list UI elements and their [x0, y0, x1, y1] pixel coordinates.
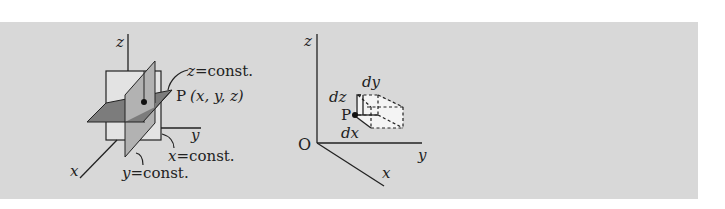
- x-const-label: x=const.: [168, 147, 235, 165]
- z-const-label: z=const.: [186, 62, 253, 80]
- dx-label: dx: [341, 124, 360, 142]
- y-axis-label-right: y: [417, 146, 427, 164]
- z-axis-label-right: z: [303, 32, 312, 50]
- volume-element-box: [355, 95, 403, 128]
- point-p-label-left: P(x, y, z): [176, 87, 244, 105]
- y-const-label: y=const.: [121, 164, 189, 182]
- point-p-left: [141, 99, 147, 105]
- x-axis-label-right: x: [382, 164, 391, 182]
- z-axis-label-left: z: [115, 33, 124, 51]
- origin-label: O: [298, 135, 311, 154]
- point-p-label-right: P: [341, 106, 351, 124]
- point-p-right: [352, 112, 358, 118]
- x-axis-label-left: x: [70, 162, 79, 180]
- x-axis-left: [80, 140, 117, 178]
- y-axis-label-left: y: [190, 126, 200, 144]
- coordinate-diagram: z y x z=const. P(x, y, z) x=const. y=con…: [0, 0, 725, 209]
- dz-label: dz: [329, 88, 347, 106]
- x-axis-right: [317, 143, 384, 186]
- x-const-leader: [162, 134, 174, 148]
- dy-label: dy: [362, 73, 381, 91]
- right-figure-volume-element: [317, 34, 422, 186]
